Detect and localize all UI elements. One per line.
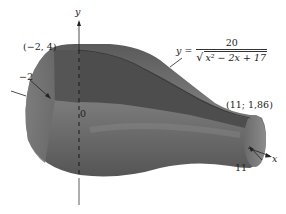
y-axis-arrow-icon bbox=[77, 20, 81, 26]
equation-denominator-wrap: √ x² − 2x + 17 bbox=[196, 49, 267, 64]
equation-denominator: x² − 2x + 17 bbox=[204, 51, 267, 63]
y-axis-label: y bbox=[75, 7, 80, 17]
right-bound-label: 11 bbox=[235, 163, 247, 173]
curve-equation: y = 20 √ x² − 2x + 17 bbox=[176, 37, 267, 64]
origin-label: 0 bbox=[80, 109, 86, 119]
left-bound-label: −2 bbox=[19, 72, 33, 82]
equation-numerator: 20 bbox=[224, 37, 240, 49]
cutaway-face bbox=[54, 50, 80, 103]
equation-fraction: 20 √ x² − 2x + 17 bbox=[196, 37, 267, 64]
left-tick bbox=[11, 91, 26, 96]
right-end-cap bbox=[244, 115, 266, 167]
sqrt-icon: √ bbox=[196, 51, 203, 64]
equation-lhs: y = bbox=[176, 45, 192, 56]
x-axis-arrow-icon bbox=[265, 153, 272, 158]
x-axis-label: x bbox=[272, 154, 277, 164]
point-right-top-label: (11; 1,86) bbox=[226, 100, 273, 110]
point-left-top-label: (−2, 4) bbox=[23, 42, 57, 52]
